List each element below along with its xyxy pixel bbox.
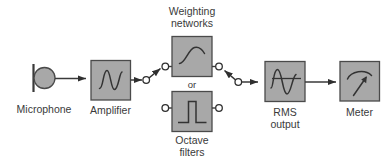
microphone-block <box>34 64 56 92</box>
switch-left[interactable] <box>143 63 169 111</box>
switch-left-lower-contact[interactable] <box>162 105 169 112</box>
meter-block <box>340 62 380 102</box>
amplifier-label: Amplifier <box>90 104 131 116</box>
rms-output-box <box>265 62 305 102</box>
octave-filters-label-line1: Octave <box>175 134 208 146</box>
switch-left-upper-contact[interactable] <box>162 63 169 70</box>
meter-box <box>340 62 380 102</box>
rms-output-label-line2: output <box>270 118 299 130</box>
meter-label: Meter <box>346 106 373 118</box>
switch-left-pivot-contact[interactable] <box>143 77 150 84</box>
weighting-networks-label-line1: Weighting <box>169 5 216 17</box>
amplifier-block <box>91 61 131 101</box>
rms-output-label-line1: RMS <box>273 106 296 118</box>
switch-right-pivot-contact[interactable] <box>235 79 242 86</box>
octave-filters-block <box>172 92 212 132</box>
weighting-networks-label-line2: networks <box>171 17 213 29</box>
weighting-networks-block <box>172 37 212 77</box>
microphone-capsule-icon <box>34 68 55 89</box>
rms-output-block <box>265 62 305 102</box>
signal-chain-diagram: Microphone Amplifier Weighting networks … <box>0 0 389 166</box>
octave-filters-box <box>172 92 212 132</box>
switch-right[interactable] <box>216 63 242 111</box>
octave-filters-label-line2: filters <box>179 146 204 158</box>
switch-right-upper-contact[interactable] <box>216 63 223 70</box>
weighting-networks-box <box>172 37 212 77</box>
microphone-label: Microphone <box>17 103 72 115</box>
diagram-canvas: Microphone Amplifier Weighting networks … <box>0 0 389 166</box>
or-label: or <box>188 79 196 90</box>
switch-right-lower-contact[interactable] <box>216 105 223 112</box>
